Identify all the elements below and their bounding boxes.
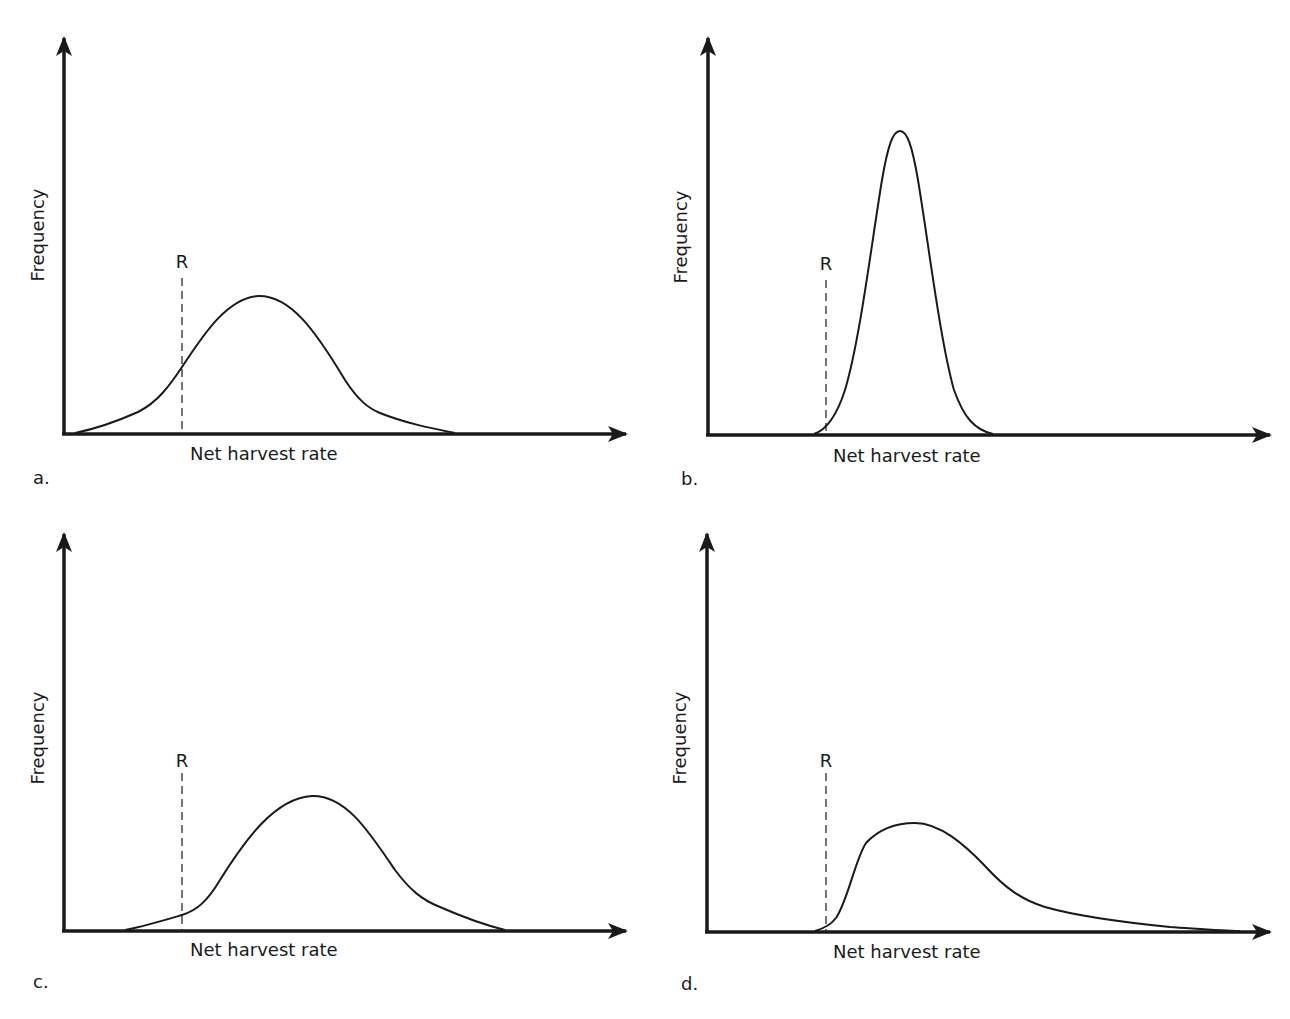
panel-label: b. xyxy=(681,468,698,489)
figure-four-panel-distributions: Frequency R Net harvest rate a. Frequenc… xyxy=(0,0,1290,1019)
threshold-label: R xyxy=(820,750,833,771)
y-axis-label: Frequency xyxy=(27,188,48,281)
x-axis-label: Net harvest rate xyxy=(190,939,338,960)
panel-label: d. xyxy=(681,973,698,994)
threshold-label: R xyxy=(176,251,189,272)
x-axis-label: Net harvest rate xyxy=(833,941,981,962)
panel-label: c. xyxy=(33,971,49,992)
figure-caption-cropped xyxy=(20,1008,1270,1019)
distribution-curve xyxy=(815,823,1240,931)
x-axis-label: Net harvest rate xyxy=(190,443,338,464)
distribution-curve xyxy=(75,296,455,433)
panel-d: Frequency R Net harvest rate d. xyxy=(669,534,1270,994)
threshold-label: R xyxy=(820,253,833,274)
panel-b: Frequency R Net harvest rate b. xyxy=(670,38,1270,489)
panel-a: Frequency R Net harvest rate a. xyxy=(27,38,626,488)
y-axis-label: Frequency xyxy=(27,691,48,784)
panel-label: a. xyxy=(33,467,50,488)
y-axis-label: Frequency xyxy=(669,691,690,784)
threshold-label: R xyxy=(176,750,189,771)
distribution-curve xyxy=(814,131,993,434)
panel-c: Frequency R Net harvest rate c. xyxy=(27,534,626,992)
x-axis-label: Net harvest rate xyxy=(833,445,981,466)
y-axis-label: Frequency xyxy=(670,190,691,283)
